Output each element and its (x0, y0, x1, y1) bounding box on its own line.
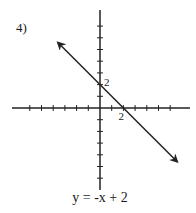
plotted-line (58, 42, 177, 161)
x-intercept-label: 2 (118, 110, 124, 122)
coordinate-graph: 22 (0, 0, 196, 213)
equation-label: y = -x + 2 (0, 190, 196, 206)
problem-number: 4) (16, 20, 27, 36)
y-intercept-label: 2 (104, 76, 110, 88)
